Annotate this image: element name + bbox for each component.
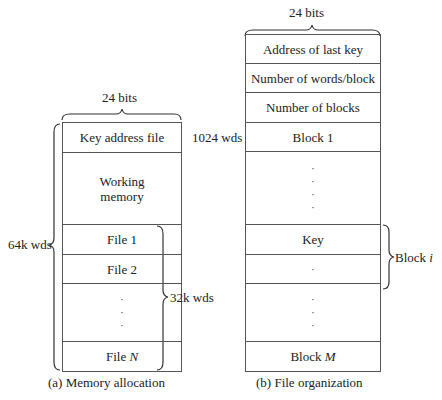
key-cell: Key xyxy=(245,224,381,255)
blocks-ellipsis-cell-2: ··· xyxy=(245,283,381,342)
caption-a: (a) Memory allocation xyxy=(48,375,165,391)
working-memory-cell: Working memory xyxy=(62,152,182,225)
files-ellipsis-cell: ··· xyxy=(62,283,182,342)
file-2-cell: File 2 xyxy=(62,254,182,284)
address-of-last-key-cell: Address of last key xyxy=(245,34,381,64)
key-file-size-label: 1024 wds xyxy=(192,130,242,146)
block-i-italic: i xyxy=(429,250,433,265)
block-m-label: Block xyxy=(290,349,321,364)
width-label: 24 bits xyxy=(289,5,324,21)
file-n-cell: File N xyxy=(62,341,182,372)
file-n-label: File xyxy=(106,349,126,364)
total-size-label: 64k wds xyxy=(8,237,52,253)
block-m-cell: Block M xyxy=(245,341,381,372)
key-address-file-cell: Key address file xyxy=(62,122,182,153)
file-n-italic: N xyxy=(129,349,138,364)
files-size-label: 32k wds xyxy=(170,290,214,306)
block-i-label: Block i xyxy=(395,250,433,266)
file-1-cell: File 1 xyxy=(62,224,182,255)
words-per-block-cell: Number of words/block xyxy=(245,63,381,93)
caption-b: (b) File organization xyxy=(256,375,363,391)
blocks-ellipsis-cell: ···· xyxy=(245,151,381,225)
block-1-cell: Block 1 xyxy=(245,122,381,152)
block-i-text: Block xyxy=(395,250,426,265)
number-of-blocks-cell: Number of blocks xyxy=(245,92,381,123)
block-m-italic: M xyxy=(325,349,336,364)
width-label: 24 bits xyxy=(102,90,137,106)
key-data-cell: · xyxy=(245,254,381,284)
